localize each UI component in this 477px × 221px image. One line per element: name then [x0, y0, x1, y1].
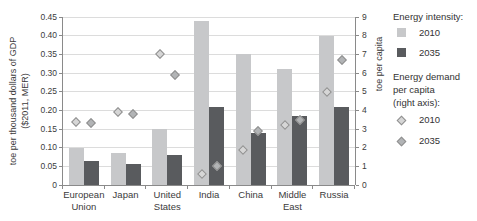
legend-intensity-2035-label: 2035 [419, 46, 440, 59]
left-axis-tick-label: 0.15 [27, 125, 57, 134]
right-axis-line [355, 17, 356, 185]
right-axis-tick-label: 2 [362, 143, 380, 152]
legend-demand-heading: Energy demand per capita (right axis): [393, 70, 460, 109]
left-axis-tick [59, 54, 62, 55]
left-axis-tick-label: 0.40 [27, 31, 57, 40]
right-axis-tick [356, 129, 359, 130]
intensity-2035-bar [209, 107, 224, 185]
demand-2010-marker [71, 117, 81, 127]
right-axis-tick-label: 3 [362, 125, 380, 134]
right-axis-tick-label: 1 [362, 162, 380, 171]
left-axis-tick-label: 0.20 [27, 106, 57, 115]
intensity-2035-bar [167, 155, 182, 185]
right-axis-tick [356, 17, 359, 18]
left-axis-tick-label: 0.25 [27, 87, 57, 96]
left-axis-tick [59, 35, 62, 36]
right-axis-tick-label: 0 [362, 181, 380, 190]
left-axis-tick [59, 73, 62, 74]
left-axis-tick-label: 0.10 [27, 143, 57, 152]
intensity-2010-bar [236, 54, 251, 185]
right-axis-tick [356, 54, 359, 55]
left-axis-tick-label: 0 [27, 181, 57, 190]
right-axis-tick [356, 73, 359, 74]
intensity-2035-bar [334, 107, 349, 185]
left-axis-tick [59, 110, 62, 111]
right-axis-tick [356, 147, 359, 148]
right-axis-tick-label: 8 [362, 31, 380, 40]
intensity-2035-bar [292, 116, 307, 185]
left-axis-tick-label: 0.30 [27, 69, 57, 78]
right-axis-tick-label: 4 [362, 106, 380, 115]
right-axis-tick [356, 185, 359, 186]
left-axis-tick [59, 17, 62, 18]
chart-screenshot: toe per thousand dollars of GDP ($2011, … [0, 0, 477, 221]
left-axis-tick-label: 0.05 [27, 162, 57, 171]
right-axis-tick-label: 5 [362, 87, 380, 96]
left-axis-tick [59, 166, 62, 167]
intensity-2010-bar [194, 21, 209, 185]
demand-2035-marker [337, 55, 347, 65]
demand-2035-marker [86, 118, 96, 128]
intensity-2010-bar [111, 153, 126, 185]
intensity-2010-swatch-icon [397, 28, 406, 37]
x-axis-line [62, 185, 355, 186]
right-axis-tick-label: 7 [362, 50, 380, 59]
legend-intensity-heading: Energy intensity: [393, 10, 463, 23]
right-axis-tick-label: 9 [362, 13, 380, 22]
intensity-2035-bar [126, 164, 141, 185]
right-axis-tick [356, 35, 359, 36]
intensity-2035-swatch-icon [397, 48, 406, 57]
left-axis-tick [59, 91, 62, 92]
legend-intensity-2010-label: 2010 [419, 26, 440, 39]
gridline [63, 73, 355, 74]
demand-2010-marker [113, 107, 123, 117]
right-axis-tick [356, 91, 359, 92]
left-axis-line [62, 17, 63, 185]
legend-demand-2035-label: 2035 [419, 134, 440, 147]
right-axis-tick [356, 110, 359, 111]
left-axis-tick-label: 0.45 [27, 13, 57, 22]
intensity-2035-bar [84, 161, 99, 185]
intensity-2010-bar [152, 129, 167, 185]
gridline [63, 35, 355, 36]
right-axis-tick-label: 6 [362, 69, 380, 78]
demand-2035-marker [170, 70, 180, 80]
gridline [63, 91, 355, 92]
intensity-2010-bar [69, 148, 84, 185]
demand-2010-marker [155, 49, 165, 59]
intensity-2010-bar [319, 36, 334, 185]
left-axis-tick [59, 147, 62, 148]
left-axis-tick-label: 0.35 [27, 50, 57, 59]
intensity-2035-bar [251, 133, 266, 185]
right-axis-tick [356, 166, 359, 167]
left-axis-tick [59, 129, 62, 130]
legend-demand-2010-label: 2010 [419, 113, 440, 126]
gridline [63, 17, 355, 18]
gridline [63, 54, 355, 55]
category-label: Russia [310, 189, 358, 201]
